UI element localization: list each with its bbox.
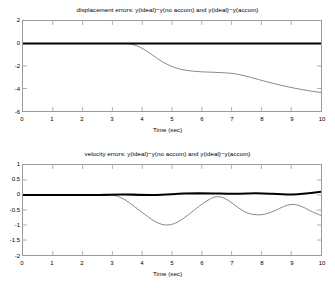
series-line-no-accom-displacement xyxy=(23,44,321,93)
x-tick-label: 6 xyxy=(195,260,209,266)
y-tick-label: -1 xyxy=(15,222,20,228)
x-tick-label: 8 xyxy=(255,260,269,266)
x-tick-label: 10 xyxy=(315,260,329,266)
plot-area-displacement xyxy=(22,20,322,112)
y-tick-label: -1.5 xyxy=(10,237,20,243)
x-tick-label: 9 xyxy=(285,260,299,266)
y-tick-label: 2 xyxy=(17,17,20,23)
y-axis-labels-velocity: 1 0.5 0 -0.5 -1 -1.5 -2 xyxy=(0,144,20,288)
y-tick-label: -2 xyxy=(15,253,20,259)
velocity-errors-panel: velocity errors: y(ideal)−y(no accom) an… xyxy=(0,144,335,288)
y-tick-label: 1 xyxy=(17,161,20,167)
x-tick-label: 4 xyxy=(135,260,149,266)
x-axis-title-displacement: Time (sec) xyxy=(0,126,335,134)
x-tick-label: 1 xyxy=(45,260,59,266)
y-tick-label: -2 xyxy=(15,63,20,69)
x-tick-label: 8 xyxy=(255,116,269,122)
x-tick-label: 7 xyxy=(225,116,239,122)
x-axis-title-velocity: Time (sec) xyxy=(0,270,335,278)
x-tick-label: 6 xyxy=(195,116,209,122)
y-tick-label: -4 xyxy=(15,86,20,92)
x-tick-label: 1 xyxy=(45,116,59,122)
y-axis-labels-displacement: 2 0 -2 -4 -6 xyxy=(0,0,20,144)
displacement-errors-panel: displacement errors: y(ideal)−y(no accom… xyxy=(0,0,335,144)
y-tick-label: -0.5 xyxy=(10,207,20,213)
x-tick-label: 4 xyxy=(135,116,149,122)
x-tick-label: 5 xyxy=(165,260,179,266)
series-layer-displacement xyxy=(23,21,321,111)
x-tick-label: 0 xyxy=(15,116,29,122)
y-tick-label: -6 xyxy=(15,109,20,115)
y-tick-label: 0 xyxy=(17,191,20,197)
x-tick-label: 5 xyxy=(165,116,179,122)
y-tick-label: 0.5 xyxy=(12,176,20,182)
x-tick-label: 0 xyxy=(15,260,29,266)
x-tick-label: 2 xyxy=(75,260,89,266)
x-tick-label: 3 xyxy=(105,260,119,266)
chart-title-displacement: displacement errors: y(ideal)−y(no accom… xyxy=(0,6,335,14)
series-line-no-accom-velocity xyxy=(23,195,321,225)
series-line-accom-velocity xyxy=(23,192,321,195)
x-tick-label: 10 xyxy=(315,116,329,122)
tick-marks-displacement xyxy=(23,21,321,111)
figure-canvas: displacement errors: y(ideal)−y(no accom… xyxy=(0,0,335,288)
chart-title-velocity: velocity errors: y(ideal)−y(no accom) an… xyxy=(0,150,335,158)
x-tick-label: 3 xyxy=(105,116,119,122)
x-tick-label: 7 xyxy=(225,260,239,266)
x-tick-label: 2 xyxy=(75,116,89,122)
y-tick-label: 0 xyxy=(17,40,20,46)
plot-area-velocity xyxy=(22,164,322,256)
x-tick-label: 9 xyxy=(285,116,299,122)
series-layer-velocity xyxy=(23,165,321,255)
